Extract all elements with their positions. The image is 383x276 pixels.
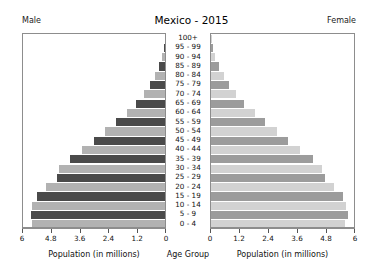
bar-row: [211, 90, 354, 99]
axis-tick-label: 2.4: [103, 234, 114, 243]
axis-tick-label: 1.2: [131, 234, 142, 243]
bar-row: [211, 108, 354, 117]
male-x-axis-ticks: 64.83.62.41.20: [22, 229, 166, 247]
axis-tick: [297, 229, 298, 233]
male-bar: [162, 53, 165, 61]
male-bar: [105, 127, 165, 135]
male-bar: [127, 109, 165, 117]
axis-tick: [108, 229, 109, 233]
bar-row: [23, 192, 165, 201]
axis-tick-label: 1.2: [233, 234, 244, 243]
age-group-label: 85 - 89: [166, 61, 210, 70]
axis-tick: [22, 229, 23, 233]
male-axis-title: Population (in millions): [22, 250, 166, 259]
age-group-axis: 100+95 - 9990 - 9485 - 8980 - 8475 - 797…: [166, 33, 210, 228]
age-group-label: 70 - 74: [166, 89, 210, 98]
female-bar: [211, 44, 213, 52]
bar-row: [23, 210, 165, 219]
male-bar: [144, 90, 165, 98]
axis-tick: [80, 229, 81, 233]
bar-row: [211, 164, 354, 173]
female-bar: [211, 211, 348, 219]
age-group-label: 20 - 24: [166, 182, 210, 191]
male-bar: [94, 137, 165, 145]
bar-row: [23, 173, 165, 182]
age-group-label: 100+: [166, 33, 210, 42]
female-bar: [211, 155, 313, 163]
bar-row: [23, 220, 165, 228]
male-bar: [32, 202, 165, 210]
axis-tick-label: 6: [353, 234, 358, 243]
bar-row: [23, 164, 165, 173]
age-group-label: 50 - 54: [166, 126, 210, 135]
age-group-label: 55 - 59: [166, 117, 210, 126]
age-group-label: 10 - 14: [166, 200, 210, 209]
age-group-label: 90 - 94: [166, 52, 210, 61]
bar-row: [211, 80, 354, 89]
bar-row: [211, 118, 354, 127]
axis-tick-label: 2.4: [262, 234, 273, 243]
age-group-label: 45 - 49: [166, 135, 210, 144]
axis-tick-label: 3.6: [74, 234, 85, 243]
female-plot-panel: [210, 33, 355, 228]
female-bar: [211, 220, 345, 228]
male-bar: [70, 155, 165, 163]
bar-row: [211, 43, 354, 52]
population-pyramid-chart: Male Mexico - 2015 Female 100+95 - 9990 …: [0, 0, 383, 276]
bar-row: [23, 108, 165, 117]
female-bar: [211, 165, 322, 173]
bar-row: [23, 155, 165, 164]
age-group-label: 65 - 69: [166, 98, 210, 107]
male-bar: [32, 220, 165, 228]
axis-tick-label: 0: [208, 234, 213, 243]
bar-row: [211, 210, 354, 219]
axis-tick: [239, 229, 240, 233]
female-bars-group: [211, 34, 354, 227]
male-bar: [31, 211, 165, 219]
axis-tick: [210, 229, 211, 233]
axis-tick-label: 4.8: [45, 234, 56, 243]
age-group-label: 35 - 39: [166, 154, 210, 163]
age-group-label: 75 - 79: [166, 79, 210, 88]
bar-row: [211, 99, 354, 108]
male-bar: [159, 62, 165, 70]
female-bar: [211, 174, 325, 182]
bar-row: [23, 80, 165, 89]
axis-tick: [165, 229, 166, 233]
bar-row: [23, 43, 165, 52]
bar-row: [211, 62, 354, 71]
bar-row: [23, 53, 165, 62]
bar-row: [23, 71, 165, 80]
bar-row: [23, 201, 165, 210]
bar-row: [211, 155, 354, 164]
axis-tick: [326, 229, 327, 233]
bar-row: [23, 34, 165, 43]
bar-row: [23, 136, 165, 145]
female-bar: [211, 81, 229, 89]
age-group-label: 95 - 99: [166, 42, 210, 51]
female-legend-label: Female: [327, 16, 356, 25]
female-bar: [211, 127, 277, 135]
male-bars-group: [23, 34, 165, 227]
bar-row: [211, 145, 354, 154]
age-group-label: 0 - 4: [166, 219, 210, 228]
male-bar: [59, 165, 165, 173]
male-bar: [57, 174, 165, 182]
female-bar: [211, 72, 224, 80]
bar-row: [211, 136, 354, 145]
female-bar: [211, 146, 300, 154]
axis-tick: [137, 229, 138, 233]
axis-tick-label: 0: [164, 234, 169, 243]
bar-row: [23, 90, 165, 99]
axis-tick-label: 3.6: [291, 234, 302, 243]
age-group-label: 5 - 9: [166, 209, 210, 218]
male-bar: [150, 81, 165, 89]
axis-tick: [268, 229, 269, 233]
female-bar: [211, 53, 215, 61]
female-bar: [211, 90, 236, 98]
female-bar: [211, 192, 343, 200]
male-bar: [164, 44, 165, 52]
female-x-axis-ticks: 01.22.43.64.86: [210, 229, 355, 247]
bar-row: [211, 71, 354, 80]
axis-tick-label: 6: [20, 234, 25, 243]
